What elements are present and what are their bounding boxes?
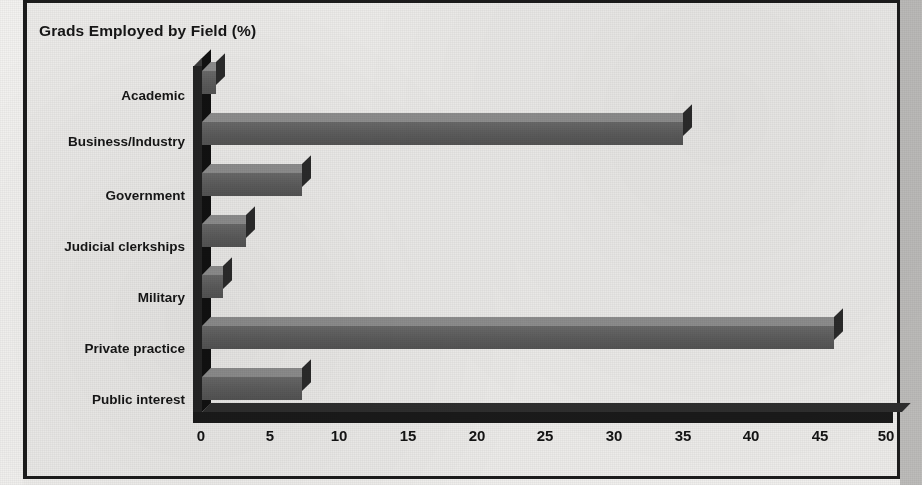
bar-top-face xyxy=(202,368,311,377)
x-tick-label-50: 50 xyxy=(878,427,895,444)
y-tick-label-business-industry: Business/Industry xyxy=(15,134,185,149)
bar-public-interest xyxy=(202,368,302,391)
bar-side-face xyxy=(834,308,843,340)
bar-top-face xyxy=(202,164,311,173)
bar-judicial-clerkships xyxy=(202,215,246,238)
bar-front-face xyxy=(202,326,834,349)
y-axis-line xyxy=(193,66,202,420)
x-tick-label-35: 35 xyxy=(675,427,692,444)
x-axis-line xyxy=(193,412,893,423)
bar-front-face xyxy=(202,122,683,145)
bar-top-face xyxy=(202,317,843,326)
bar-government xyxy=(202,164,302,187)
bar-military xyxy=(202,266,223,289)
y-tick-label-private-practice: Private practice xyxy=(15,341,185,356)
bar-front-face xyxy=(202,377,302,400)
bar-front-face xyxy=(202,71,216,94)
y-tick-label-public-interest: Public interest xyxy=(15,392,185,407)
plot-area: Academic Business/Industry Government Ju… xyxy=(0,0,922,485)
x-tick-label-25: 25 xyxy=(537,427,554,444)
y-tick-label-academic: Academic xyxy=(15,88,185,103)
bar-front-face xyxy=(202,275,223,298)
bar-top-face xyxy=(202,113,692,122)
x-tick-label-20: 20 xyxy=(469,427,486,444)
x-tick-label-45: 45 xyxy=(812,427,829,444)
bar-side-face xyxy=(216,53,225,85)
x-tick-label-30: 30 xyxy=(606,427,623,444)
x-tick-label-10: 10 xyxy=(331,427,348,444)
x-axis-top-face xyxy=(202,403,911,412)
bar-side-face xyxy=(683,104,692,136)
bar-side-face xyxy=(246,206,255,238)
chart-screenshot: Grads Employed by Field (%) xyxy=(0,0,922,485)
bar-business-industry xyxy=(202,113,683,136)
bar-front-face xyxy=(202,224,246,247)
x-tick-label-5: 5 xyxy=(266,427,274,444)
bar-side-face xyxy=(302,155,311,187)
x-tick-label-15: 15 xyxy=(400,427,417,444)
x-tick-label-40: 40 xyxy=(743,427,760,444)
chart-title: Grads Employed by Field (%) xyxy=(39,22,256,40)
bar-front-face xyxy=(202,173,302,196)
bar-academic xyxy=(202,62,216,85)
y-tick-label-military: Military xyxy=(15,290,185,305)
bar-side-face xyxy=(223,257,232,289)
bar-side-face xyxy=(302,359,311,391)
y-tick-label-judicial-clerkships: Judicial clerkships xyxy=(15,239,185,254)
x-tick-label-0: 0 xyxy=(197,427,205,444)
bar-private-practice xyxy=(202,317,834,340)
y-tick-label-government: Government xyxy=(15,188,185,203)
